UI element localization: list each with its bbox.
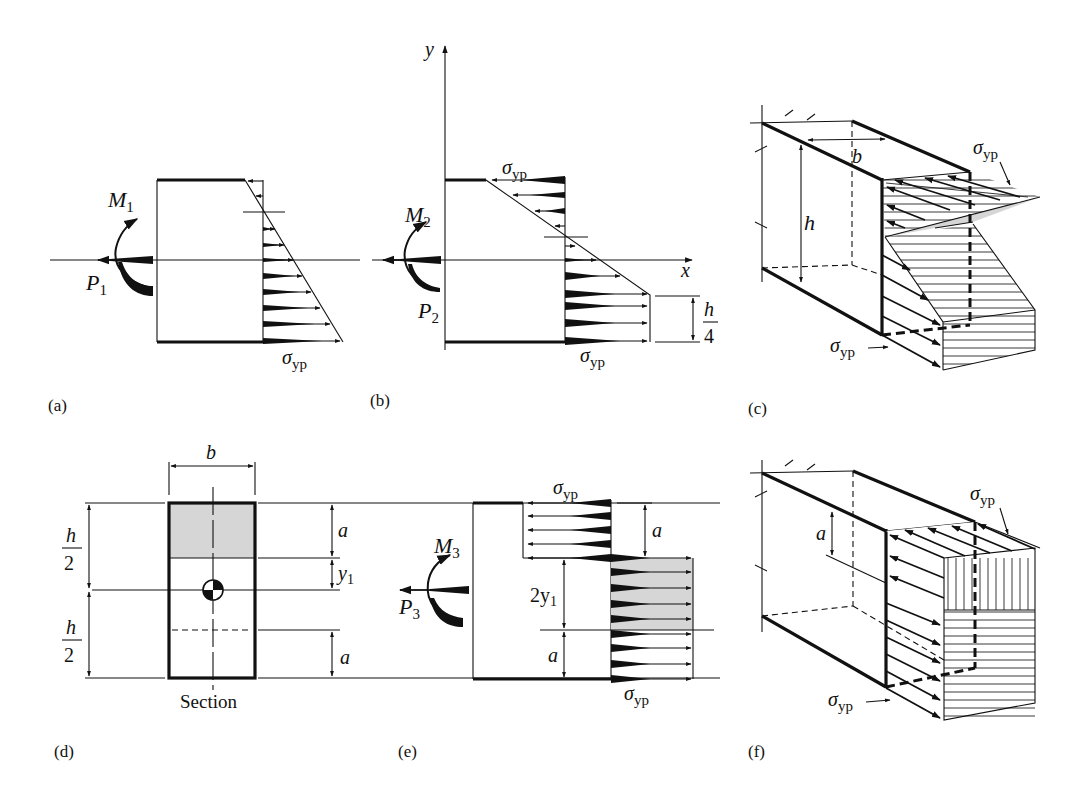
compression-stress-block <box>944 558 1035 610</box>
panel-label: (a) <box>48 396 67 415</box>
force-label: P2 <box>417 298 439 326</box>
yield-stress-bottom-label: σyp <box>828 688 853 714</box>
panel-label: (f) <box>748 742 765 761</box>
force-label: P3 <box>398 594 420 622</box>
panel-label: (c) <box>748 399 767 418</box>
axial-force-p2 <box>383 256 441 264</box>
moment-label: M1 <box>107 187 134 215</box>
svg-text:2: 2 <box>64 552 74 574</box>
beam-block <box>157 180 263 342</box>
svg-text:a: a <box>816 522 826 544</box>
yield-stress-bottom-label: σyp <box>580 344 605 370</box>
svg-text:b: b <box>852 145 862 167</box>
stress-distribution-figure: M1 P1 σyp (a) y x <box>0 0 1089 805</box>
svg-text:a: a <box>548 644 558 666</box>
svg-text:h: h <box>804 210 815 235</box>
yield-stress-bottom-label: σyp <box>624 682 649 708</box>
yielded-region-shaded <box>169 503 255 558</box>
axial-force-p3 <box>400 586 469 594</box>
yield-stress-top-label: σyp <box>553 476 578 502</box>
svg-text:4: 4 <box>704 325 714 347</box>
panel-b: y x <box>370 38 718 410</box>
y-axis-label: y <box>423 38 434 61</box>
svg-text:a: a <box>652 519 662 541</box>
axial-force-p1 <box>98 256 153 264</box>
moment-label: M3 <box>433 533 460 561</box>
compressive-stress-arrows <box>492 176 565 226</box>
section-caption: Section <box>180 691 237 712</box>
panel-label: (b) <box>370 391 390 410</box>
tensile-stress-arrows <box>263 227 340 344</box>
stress-profile-line <box>245 180 343 342</box>
x-axis-label: x <box>680 259 690 281</box>
yield-stress-label: σyp <box>282 346 307 372</box>
yield-stress-top-label: σyp <box>973 136 998 162</box>
svg-text:h: h <box>66 524 76 546</box>
panel-e: a 2y1 a M3 P3 σyp σyp (e) <box>398 476 714 761</box>
svg-text:h: h <box>66 616 76 638</box>
panel-label: (d) <box>54 742 74 761</box>
panel-f: a σyp σyp (f <box>748 460 1040 761</box>
centroid-icon <box>203 580 223 600</box>
svg-text:a: a <box>340 646 350 668</box>
yield-stress-top-label: σyp <box>970 482 995 508</box>
width-dimension <box>808 139 885 140</box>
force-label: P1 <box>85 270 107 298</box>
tensile-stress-arrows <box>886 603 940 718</box>
compressive-stress-arrows <box>528 499 611 562</box>
moment-label: M2 <box>404 202 431 230</box>
svg-text:2: 2 <box>64 644 74 666</box>
svg-text:a: a <box>338 519 348 541</box>
dimension-h-over-4: h 4 <box>655 296 718 347</box>
svg-text:b: b <box>206 441 216 463</box>
svg-text:h: h <box>704 298 714 320</box>
svg-text:2y1: 2y1 <box>530 584 557 609</box>
tensile-stress-arrows <box>565 246 647 345</box>
tension-stress-block <box>944 610 1035 720</box>
panel-label: (e) <box>398 742 417 761</box>
yield-stress-top-label: σyp <box>502 156 527 182</box>
panel-a: M1 P1 σyp (a) <box>48 180 360 415</box>
panel-c: b h σyp <box>748 105 1040 418</box>
svg-text:y1: y1 <box>336 562 354 587</box>
yield-stress-bottom-label: σyp <box>830 334 855 360</box>
